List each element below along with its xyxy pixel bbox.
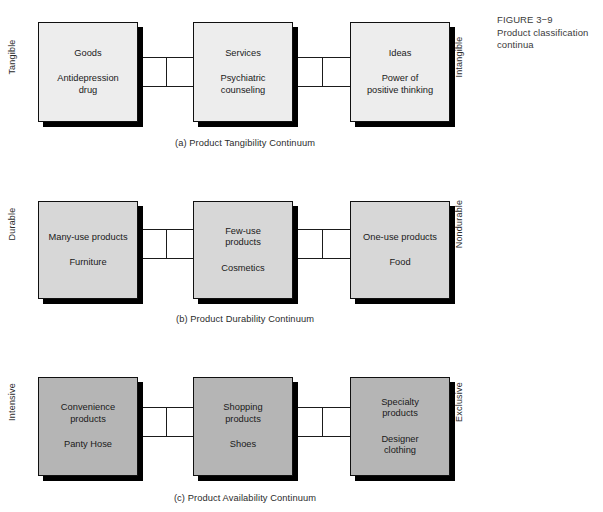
connector-divider [322, 57, 323, 87]
box-example-line1: Food [389, 257, 410, 267]
box-example: Shoes [230, 439, 256, 451]
box-example-line2: clothing [384, 445, 416, 455]
box-example: Food [389, 257, 410, 269]
box-example: Cosmetics [221, 263, 264, 275]
continuum-box-ideas: Ideas Power of positive thinking [350, 22, 450, 122]
box-example: Furniture [69, 257, 106, 269]
box-category: Many-use products [48, 232, 127, 244]
continuum-connector-2 [292, 407, 352, 437]
box-example: Designer clothing [381, 434, 418, 457]
box-example: Panty Hose [64, 439, 112, 451]
box-category-line1: Many-use products [48, 232, 127, 242]
continuum-box-one-use-products: One-use products Food [350, 201, 450, 299]
continuum-connector-1 [136, 229, 195, 259]
box-category-line1: One-use products [363, 232, 437, 242]
box-category: One-use products [363, 232, 437, 244]
box-example-line1: Antidepression [57, 73, 119, 83]
box-example-line1: Furniture [69, 257, 106, 267]
continuum-box-specialty-products: Specialty products Designer clothing [350, 377, 450, 476]
box-category-line2: products [382, 408, 418, 418]
connector-divider [322, 407, 323, 437]
continuum-connector-1 [136, 407, 195, 437]
continuum-caption-a: (a) Product Tangibility Continuum [0, 138, 490, 148]
box-category: Services [225, 48, 261, 60]
box-example-line1: Psychiatric [221, 73, 266, 83]
box-example-line2: positive thinking [367, 85, 433, 95]
continuum-tangibility: Tangible Intangible Goods Antidepression… [0, 0, 603, 180]
box-category: Convenience products [61, 402, 115, 425]
box-category: Ideas [389, 48, 412, 60]
box-example-line1: Designer [381, 434, 418, 444]
continuum-box-convenience-products: Convenience products Panty Hose [38, 377, 138, 476]
box-example: Antidepression drug [57, 73, 119, 96]
continuum-box-shopping-products: Shopping products Shoes [193, 377, 293, 476]
connector-divider [166, 407, 167, 437]
box-category-line2: products [225, 237, 261, 247]
box-example-line1: Power of [382, 73, 419, 83]
box-example: Power of positive thinking [367, 73, 433, 96]
continuum-left-label-intensive: Intensive [7, 372, 17, 432]
continuum-connector-2 [292, 57, 352, 87]
box-example-line1: Shoes [230, 439, 256, 449]
box-example-line1: Cosmetics [221, 263, 264, 273]
connector-divider [322, 229, 323, 259]
box-example-line1: Panty Hose [64, 439, 112, 449]
box-category-line2: products [70, 414, 106, 424]
continuum-left-label-tangible: Tangible [7, 27, 17, 87]
continuum-left-label-durable: Durable [7, 194, 17, 254]
continuum-box-services: Services Psychiatric counseling [193, 22, 293, 122]
continuum-right-label-nondurable: Nondurable [454, 194, 464, 254]
continuum-right-label-exclusive: Exclusive [454, 372, 464, 432]
continuum-right-label-intangible: Intangible [454, 27, 464, 87]
box-category-line1: Convenience [61, 402, 115, 412]
box-category-line1: Shopping [223, 402, 262, 412]
box-example-line2: drug [79, 85, 98, 95]
box-category-line1: Few-use [225, 226, 261, 236]
continuum-durability: Durable Nondurable Many-use products Fur… [0, 179, 603, 351]
continuum-box-goods: Goods Antidepression drug [38, 22, 138, 122]
box-category: Few-use products [225, 226, 261, 249]
box-category: Shopping products [223, 402, 262, 425]
continuum-connector-2 [292, 229, 352, 259]
connector-divider [166, 57, 167, 87]
continuum-caption-b: (b) Product Durability Continuum [0, 314, 490, 324]
box-category: Specialty products [381, 397, 419, 420]
continuum-box-many-use-products: Many-use products Furniture [38, 201, 138, 299]
box-example: Psychiatric counseling [221, 73, 266, 96]
figure-page: FIGURE 3−9 Product classification contin… [0, 0, 603, 512]
continuum-caption-c: (c) Product Availability Continuum [0, 493, 490, 503]
continuum-box-few-use-products: Few-use products Cosmetics [193, 201, 293, 299]
connector-divider [166, 229, 167, 259]
box-category-line1: Specialty [381, 397, 419, 407]
box-category-line2: products [225, 414, 261, 424]
continuum-connector-1 [136, 57, 195, 87]
box-category: Goods [74, 48, 101, 60]
box-example-line2: counseling [221, 85, 265, 95]
continuum-availability: Intensive Exclusive Convenience products… [0, 355, 603, 512]
